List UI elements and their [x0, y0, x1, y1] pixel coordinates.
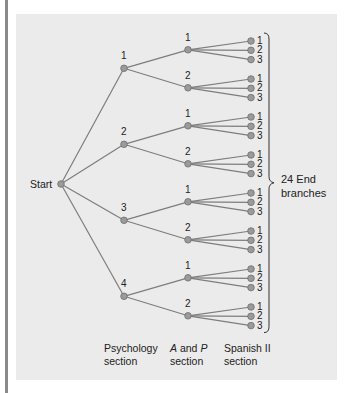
- ap-option-label: 1: [185, 185, 191, 195]
- tree-node: [248, 170, 255, 177]
- axis-spanish-line1: Spanish II: [224, 342, 271, 355]
- tree-node: [121, 217, 128, 224]
- tree-node: [248, 322, 255, 329]
- tree-node: [248, 123, 255, 130]
- tree-branch: [188, 164, 251, 165]
- psychology-option-label: 4: [121, 279, 127, 289]
- tree-node: [248, 161, 255, 168]
- tree-branch: [124, 50, 188, 69]
- tree-branch: [188, 126, 251, 136]
- axis-ap-p: P: [200, 342, 207, 354]
- tree-node: [248, 246, 255, 253]
- spanish-option-label: 3: [257, 283, 263, 293]
- tree-branch: [124, 68, 188, 88]
- tree-branch: [188, 202, 251, 212]
- spanish-option-label: 3: [257, 169, 263, 179]
- tree-branch: [124, 126, 188, 145]
- tree-node: [248, 132, 255, 139]
- tree-node: [248, 237, 255, 244]
- tree-node: [248, 38, 255, 45]
- spanish-option-label: 3: [257, 321, 263, 331]
- tree-branch: [188, 307, 251, 316]
- end-label-line1: 24 End: [281, 172, 326, 186]
- tree-node: [248, 313, 255, 320]
- tree-node: [58, 181, 65, 188]
- ap-option-label: 2: [185, 299, 191, 309]
- tree-branch: [188, 316, 251, 326]
- tree-branch: [188, 50, 251, 51]
- ap-option-label: 2: [185, 147, 191, 157]
- tree-node: [248, 94, 255, 101]
- tree-branch: [124, 296, 188, 316]
- axis-psych-line1: Psychology: [104, 342, 158, 355]
- tree-node: [248, 152, 255, 159]
- spanish-option-label: 3: [257, 55, 263, 65]
- tree-node: [121, 141, 128, 148]
- tree-node: [248, 190, 255, 197]
- axis-ap-and: and: [177, 342, 200, 354]
- tree-branch: [188, 50, 251, 60]
- tree-node: [248, 228, 255, 235]
- tree-node: [185, 275, 192, 282]
- tree-branch: [61, 184, 124, 296]
- tree-branch: [188, 79, 251, 88]
- tree-branch: [188, 278, 251, 288]
- tree-node: [185, 161, 192, 168]
- spanish-option-label: 3: [257, 245, 263, 255]
- tree-node: [248, 266, 255, 273]
- start-label: Start: [30, 178, 52, 190]
- ap-option-label: 2: [185, 71, 191, 81]
- axis-ap-line2: section: [170, 355, 207, 368]
- tree-branch: [124, 278, 188, 297]
- tree-node: [185, 85, 192, 92]
- tree-branch: [188, 41, 251, 50]
- tree-node: [248, 275, 255, 282]
- tree-branch: [188, 117, 251, 126]
- tree-branch: [188, 231, 251, 240]
- spanish-option-label: 3: [257, 131, 263, 141]
- tree-branch: [188, 126, 251, 127]
- ap-option-label: 2: [185, 223, 191, 233]
- tree-node: [248, 304, 255, 311]
- ap-option-label: 1: [185, 109, 191, 119]
- tree-node: [248, 114, 255, 121]
- axis-label-spanish: Spanish II section: [224, 342, 271, 368]
- tree-node: [185, 237, 192, 244]
- spanish-option-label: 3: [257, 93, 263, 103]
- tree-node: [185, 47, 192, 54]
- tree-branch: [124, 220, 188, 240]
- tree-branch: [61, 144, 124, 184]
- tree-node: [248, 199, 255, 206]
- axis-label-psychology: Psychology section: [104, 342, 158, 368]
- tree-branch: [188, 278, 251, 279]
- tree-branch: [61, 184, 124, 220]
- tree-branch: [188, 193, 251, 202]
- tree-branch: [188, 88, 251, 98]
- psychology-option-label: 1: [121, 51, 127, 61]
- axis-ap-line1: A and P: [170, 342, 207, 355]
- spanish-option-label: 3: [257, 207, 263, 217]
- tree-branch: [188, 316, 251, 317]
- tree-branch: [188, 240, 251, 241]
- tree-branch: [188, 88, 251, 89]
- tree-node: [185, 123, 192, 130]
- tree-branch: [124, 202, 188, 221]
- tree-node: [121, 65, 128, 72]
- tree-node: [248, 284, 255, 291]
- tree-node: [121, 293, 128, 300]
- tree-branch: [188, 269, 251, 278]
- tree-branch: [61, 68, 124, 184]
- tree-node: [185, 199, 192, 206]
- tree-branch: [188, 164, 251, 174]
- tree-branch: [124, 144, 188, 164]
- tree-node: [248, 208, 255, 215]
- axis-spanish-line2: section: [224, 355, 271, 368]
- end-branches-label: 24 End branches: [281, 172, 326, 200]
- tree-node: [248, 56, 255, 63]
- tree-node: [248, 76, 255, 83]
- psychology-option-label: 2: [121, 127, 127, 137]
- tree-node: [185, 313, 192, 320]
- tree-branch: [188, 155, 251, 164]
- axis-ap-a: A: [170, 342, 177, 354]
- tree-branch: [188, 202, 251, 203]
